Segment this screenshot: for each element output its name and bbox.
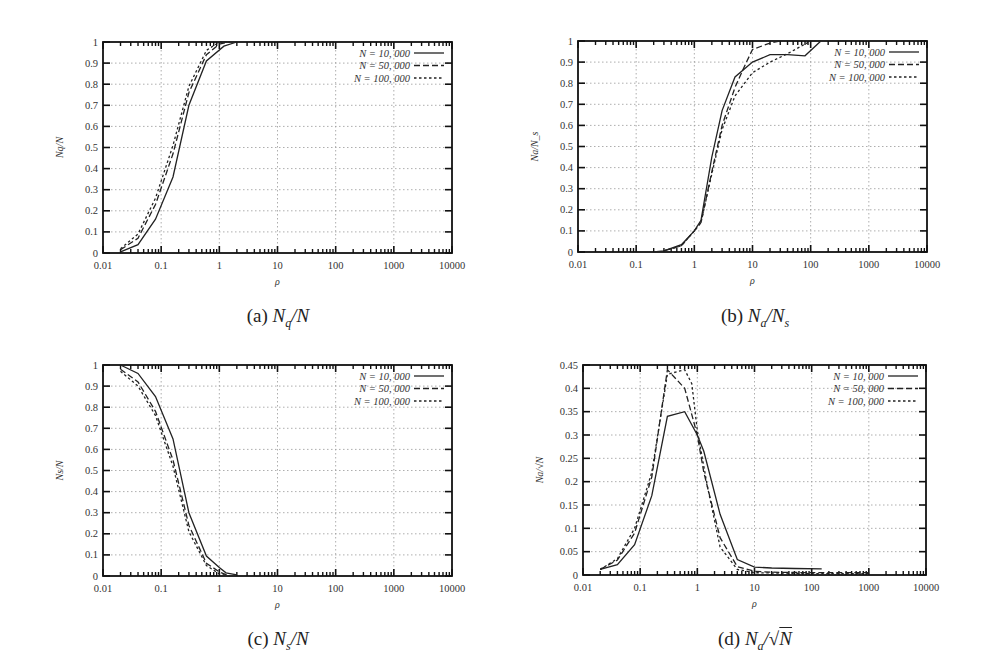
- caption-b: (b) Na/Ns: [605, 305, 905, 331]
- x-axis-label: ρ: [751, 598, 757, 609]
- x-tick-label: 1000: [858, 582, 879, 593]
- y-tick-label: 0.15: [560, 500, 578, 511]
- y-tick-label: 0.45: [560, 360, 578, 371]
- caption-b-prefix: (b): [721, 305, 743, 326]
- caption-d-prefix: (d): [718, 628, 740, 649]
- caption-c-prefix: (c): [247, 628, 268, 649]
- chart-d-na-over-sqrt-n: 0.010.111010010001000000.050.10.150.20.2…: [0, 0, 988, 672]
- caption-c-math: Ns/N: [273, 628, 308, 649]
- y-tick-label: 0: [573, 570, 578, 581]
- legend-label: N = 10, 000: [832, 371, 885, 382]
- x-tick-label: 10: [749, 582, 760, 593]
- x-tick-label: 10000: [913, 582, 939, 593]
- legend-label: N = 100, 000: [827, 396, 885, 407]
- y-tick-label: 0.2: [565, 476, 578, 487]
- y-tick-label: 0.35: [560, 406, 578, 417]
- x-tick-label: 0.1: [634, 582, 647, 593]
- caption-a-math: Nq/N: [273, 305, 310, 326]
- y-tick-label: 0.25: [560, 453, 578, 464]
- x-tick-label: 1: [695, 582, 700, 593]
- caption-d-math: Na/√N: [745, 628, 792, 649]
- y-axis-label: Na/√N: [534, 455, 545, 484]
- x-tick-label: 0.01: [574, 582, 592, 593]
- caption-a: (a) Nq/N: [128, 305, 428, 331]
- y-tick-label: 0.3: [565, 430, 578, 441]
- y-tick-label: 0.4: [565, 383, 579, 394]
- y-tick-label: 0.1: [565, 523, 578, 534]
- x-tick-label: 100: [804, 582, 820, 593]
- caption-a-prefix: (a): [247, 305, 268, 326]
- caption-b-math: Na/Ns: [748, 305, 789, 326]
- figure: 0.010.111010010001000000.10.20.30.40.50.…: [0, 0, 988, 672]
- caption-c: (c) Ns/N: [128, 628, 428, 654]
- caption-d: (d) Na/√N: [605, 628, 905, 654]
- y-tick-label: 0.05: [560, 546, 578, 557]
- legend-label: N = 50, 000: [832, 383, 885, 394]
